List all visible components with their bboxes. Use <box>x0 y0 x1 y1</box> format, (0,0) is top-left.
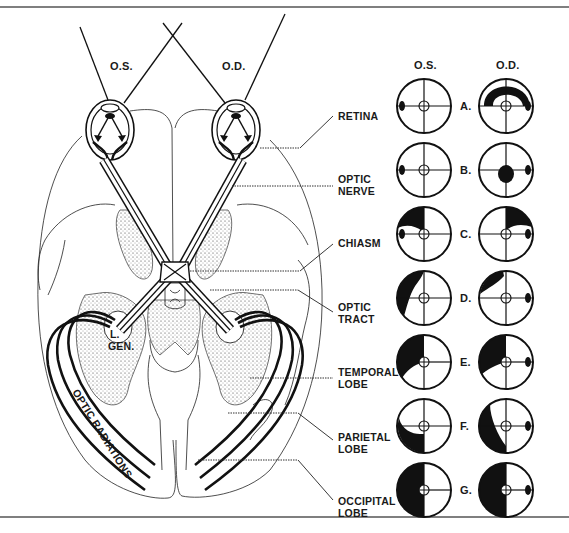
visual-rays <box>80 14 285 103</box>
label-temporal-lobe: TEMPORAL <box>338 366 399 378</box>
field-os-c <box>397 207 451 261</box>
label-occipital-lobe: OCCIPITAL <box>338 495 396 507</box>
row-letter-b: B. <box>460 164 471 176</box>
row-letter-a: A. <box>460 100 471 112</box>
field-od-b <box>479 143 533 197</box>
right-eye <box>212 100 260 160</box>
field-header-os: O.S. <box>414 59 437 71</box>
stippled-structures <box>76 210 271 405</box>
row-letter-c: C. <box>460 228 471 240</box>
field-row-c: C. <box>397 207 533 261</box>
field-os-e <box>397 335 451 389</box>
od-eye-label: O.D. <box>222 60 245 72</box>
left-eye <box>86 100 134 160</box>
label-retina: RETINA <box>338 110 379 122</box>
field-od-a <box>479 79 533 133</box>
field-row-d: D. <box>397 271 533 325</box>
field-od-e <box>479 335 533 389</box>
os-eye-label: O.S. <box>110 60 133 72</box>
field-row-e: E. <box>397 335 533 389</box>
field-row-g: G. <box>397 463 533 517</box>
row-letter-e: E. <box>460 356 471 368</box>
label-optic-nerve: OPTIC <box>338 173 371 185</box>
label-chiasm: CHIASM <box>338 237 381 249</box>
central-scotoma <box>498 165 514 183</box>
label-optic-tract-line2: TRACT <box>338 313 375 325</box>
label-optic-tract: OPTIC <box>338 301 371 313</box>
lateral-geniculate-label: L. <box>110 328 120 340</box>
field-od-c <box>479 207 533 261</box>
label-parietal-lobe-line2: LOBE <box>338 443 368 455</box>
field-od-d <box>479 271 533 325</box>
structure-labels: RETINA OPTIC NERVE CHIASM OPTIC TRACT TE… <box>338 110 399 519</box>
field-os-g <box>397 463 451 517</box>
field-od-g <box>479 463 533 517</box>
label-temporal-lobe-line2: LOBE <box>338 378 368 390</box>
field-os-b <box>397 143 451 197</box>
field-os-d <box>397 271 451 325</box>
field-row-a: A. <box>397 79 533 133</box>
label-occipital-lobe-line2: LOBE <box>338 507 368 519</box>
field-header-od: O.D. <box>496 59 519 71</box>
field-od-f <box>479 399 533 453</box>
field-os-f <box>397 399 451 453</box>
visual-pathway-diagram: L. GEN. OPTIC RADIATIONS O.S. O.D. RETIN… <box>0 0 569 533</box>
field-row-b: B. <box>397 143 533 197</box>
blind-spot <box>399 101 405 111</box>
field-os-a <box>397 79 451 133</box>
label-optic-nerve-line2: NERVE <box>338 185 375 197</box>
field-row-f: F. <box>397 399 533 453</box>
row-letter-d: D. <box>460 292 471 304</box>
label-parietal-lobe: PARIETAL <box>338 431 391 443</box>
row-letter-g: G. <box>460 484 472 496</box>
lateral-geniculate-label-line2: GEN. <box>108 340 134 352</box>
row-letter-f: F. <box>460 420 469 432</box>
